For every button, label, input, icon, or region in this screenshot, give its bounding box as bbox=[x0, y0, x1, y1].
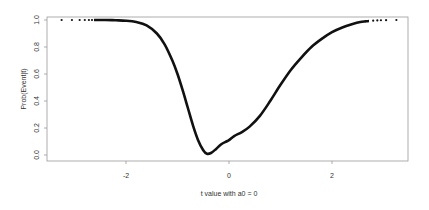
y-tick-label: 1.0 bbox=[33, 15, 40, 25]
data-point bbox=[91, 19, 93, 21]
data-point bbox=[61, 19, 63, 21]
y-tick-label: 0.6 bbox=[33, 69, 40, 79]
x-axis-label: t value with a0 = 0 bbox=[201, 190, 258, 197]
y-axis-ticks: 0.00.20.40.60.81.0 bbox=[33, 15, 47, 160]
y-tick-label: 0.0 bbox=[33, 150, 40, 160]
data-point bbox=[385, 19, 387, 21]
y-tick-label: 0.2 bbox=[33, 123, 40, 133]
data-point bbox=[395, 19, 397, 21]
curve-line bbox=[62, 20, 397, 154]
x-axis-ticks: -202 bbox=[123, 161, 334, 179]
data-point bbox=[84, 19, 86, 21]
data-point bbox=[376, 19, 378, 21]
probability-chart: -202 0.00.20.40.60.81.0 t value with a0 … bbox=[0, 0, 429, 210]
data-point bbox=[79, 19, 81, 21]
data-point bbox=[88, 19, 90, 21]
y-tick-label: 0.4 bbox=[33, 96, 40, 106]
x-tick-label: 2 bbox=[330, 172, 334, 179]
x-tick-label: 0 bbox=[227, 172, 231, 179]
data-point bbox=[71, 19, 73, 21]
plot-frame bbox=[47, 17, 408, 161]
data-series bbox=[61, 19, 398, 154]
data-point bbox=[380, 19, 382, 21]
y-axis-label: Prob(Event|t) bbox=[20, 68, 28, 109]
x-tick-label: -2 bbox=[123, 172, 129, 179]
data-point bbox=[372, 20, 374, 22]
y-tick-label: 0.8 bbox=[33, 42, 40, 52]
